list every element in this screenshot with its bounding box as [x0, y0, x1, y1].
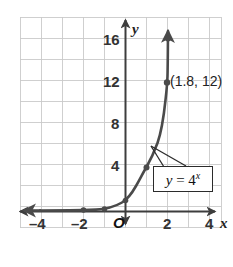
x-axis-label: x	[220, 216, 228, 231]
equation-equals-sign: =	[172, 172, 188, 188]
y-tick-16: 16	[103, 32, 120, 47]
y-tick-4: 4	[111, 158, 119, 173]
equation-text: y = 4x	[166, 171, 201, 188]
point-marker	[165, 36, 171, 42]
equation-base: 4	[188, 172, 196, 188]
point-marker	[123, 198, 129, 204]
origin-label: O	[113, 215, 125, 230]
point-marker	[144, 165, 150, 171]
exponential-graph-figure: 16 12 8 4 –4 –2 2 4 O y x (1.8, 12) y = …	[0, 0, 233, 267]
y-tick-8: 8	[111, 116, 119, 131]
x-tick-2: 2	[163, 216, 171, 231]
x-tick-4: 4	[205, 216, 213, 231]
x-tick-minus-2: –2	[71, 216, 88, 231]
y-tick-12: 12	[103, 74, 120, 89]
equation-exponent: x	[196, 170, 200, 181]
y-axis-label: y	[132, 22, 139, 37]
x-tick-minus-4: –4	[29, 216, 46, 231]
point-marker	[81, 207, 87, 213]
equation-callout-box: y = 4x	[153, 166, 213, 192]
point-marker	[102, 206, 108, 212]
point-coordinate-label: (1.8, 12)	[170, 74, 222, 88]
